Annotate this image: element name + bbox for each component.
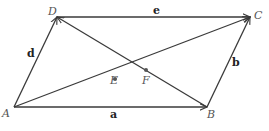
point-label-e: E (109, 74, 118, 87)
vector-label-a: a (110, 108, 117, 121)
point-label-b: B (206, 108, 215, 121)
diagonal-bd (57, 17, 207, 107)
point-label-c: C (254, 9, 263, 22)
point-f-dot (144, 68, 148, 72)
vector-label-e: e (153, 4, 160, 17)
vector-label-b: b (232, 56, 240, 69)
point-label-d: D (47, 5, 57, 18)
parallelogram-vector-diagram: A B C D E F a b d e (0, 0, 269, 131)
vector-label-d: d (27, 47, 35, 60)
point-label-f: F (141, 74, 150, 87)
point-label-a: A (1, 107, 10, 120)
